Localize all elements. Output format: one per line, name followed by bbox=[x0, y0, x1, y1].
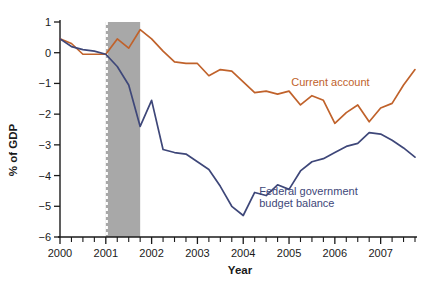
x-tick-label: 2000 bbox=[48, 247, 72, 259]
y-axis-title: % of GDP bbox=[7, 123, 19, 176]
y-tick-label: −5 bbox=[38, 200, 51, 212]
x-tick-label: 2003 bbox=[185, 247, 209, 259]
series-label-budget-balance: Federal government bbox=[259, 185, 357, 197]
y-tick-label: −2 bbox=[38, 108, 51, 120]
series-label-current-account: Current account bbox=[291, 76, 369, 88]
series-label-budget-balance: budget balance bbox=[259, 197, 334, 209]
y-tick-label: 1 bbox=[45, 16, 51, 28]
x-axis-title: Year bbox=[228, 264, 253, 276]
y-tick-label: −1 bbox=[38, 77, 51, 89]
x-tick-label: 2005 bbox=[277, 247, 301, 259]
y-tick-label: 0 bbox=[45, 47, 51, 59]
x-tick-label: 2006 bbox=[323, 247, 347, 259]
chart-container: 20002001200220032004200520062007 10−1−2−… bbox=[0, 0, 440, 284]
y-tick-label: −4 bbox=[38, 170, 51, 182]
x-tick-label: 2007 bbox=[368, 247, 392, 259]
recession-shaded-band bbox=[106, 22, 140, 237]
x-tick-label: 2004 bbox=[231, 247, 255, 259]
y-tick-label: −6 bbox=[38, 231, 51, 243]
recession-band-rect bbox=[106, 22, 140, 237]
x-tick-label: 2002 bbox=[139, 247, 163, 259]
gdp-line-chart: 20002001200220032004200520062007 10−1−2−… bbox=[0, 0, 440, 284]
y-tick-label: −3 bbox=[38, 139, 51, 151]
x-tick-label: 2001 bbox=[94, 247, 118, 259]
